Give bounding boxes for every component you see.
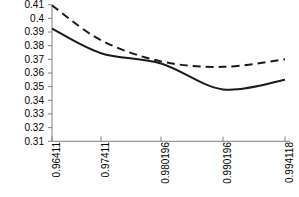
x-tick-label: 0.96411 — [52, 142, 62, 177]
x-axis-tick-labels: 0.96411 0.97411 0.980196 0.990196 0.9941… — [0, 142, 299, 197]
x-tick-label-text: 0.994118 — [285, 142, 295, 183]
x-tick-label: 0.980196 — [161, 142, 171, 184]
x-tick-label: 0.990196 — [223, 142, 233, 184]
x-tick-label-text: 0.990196 — [223, 142, 233, 184]
y-axis — [48, 5, 52, 142]
x-tick-label-text: 0.97411 — [101, 142, 111, 177]
chart-container: 0.41 0.4 0.39 0.38 0.37 0.36 0.35 0.34 0… — [0, 0, 299, 197]
x-tick-label: 0.97411 — [101, 142, 111, 177]
x-tick-label-text: 0.980196 — [161, 142, 171, 184]
x-axis — [52, 137, 290, 142]
series-line-solid — [52, 29, 285, 90]
x-tick-label-text: 0.96411 — [52, 142, 62, 177]
series-line-dashed — [52, 5, 285, 67]
plot-area — [0, 0, 299, 150]
x-tick-label: 0.994118 — [285, 142, 295, 183]
